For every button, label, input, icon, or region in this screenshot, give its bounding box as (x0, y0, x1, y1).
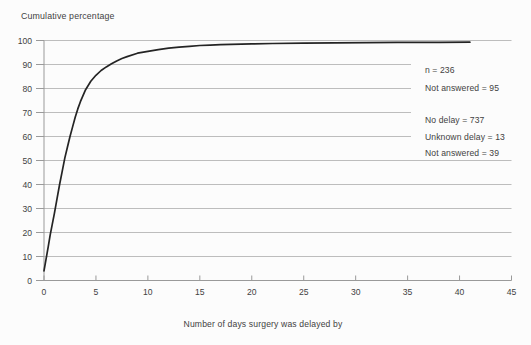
x-axis-title: Number of days surgery was delayed by (0, 319, 526, 329)
x-tick-label-30: 30 (351, 287, 361, 297)
cumulative-percentage-figure: Cumulative percentage 010203040506070809… (0, 0, 531, 345)
y-tick-label-60: 60 (22, 132, 32, 142)
x-tick-label-5: 5 (94, 287, 99, 297)
y-tick-label-90: 90 (22, 60, 32, 70)
x-tick-label-45: 45 (507, 287, 517, 297)
x-tick-label-10: 10 (143, 287, 153, 297)
x-tick-label-25: 25 (299, 287, 309, 297)
x-tick-label-35: 35 (403, 287, 413, 297)
annotation-not-answered-top: Not answered = 95 (425, 83, 499, 93)
annotation-no-delay: No delay = 737 (425, 115, 484, 125)
y-tick-label-30: 30 (22, 204, 32, 214)
y-tick-label-10: 10 (22, 252, 32, 262)
y-tick-label-70: 70 (22, 108, 32, 118)
chart-canvas: 0102030405060708090100051015202530354045 (0, 0, 531, 345)
x-tick-label-20: 20 (247, 287, 257, 297)
annotation-unknown-delay: Unknown delay = 13 (425, 132, 505, 142)
cumulative-curve (44, 42, 470, 271)
x-tick-label-15: 15 (195, 287, 205, 297)
y-tick-label-20: 20 (22, 228, 32, 238)
y-tick-label-40: 40 (22, 180, 32, 190)
y-tick-label-50: 50 (22, 156, 32, 166)
y-tick-label-80: 80 (22, 84, 32, 94)
annotation-n-total: n = 236 (425, 65, 455, 75)
y-tick-label-0: 0 (27, 276, 32, 286)
x-tick-label-0: 0 (42, 287, 47, 297)
x-tick-label-40: 40 (455, 287, 465, 297)
annotation-not-answered-bottom: Not answered = 39 (425, 148, 499, 158)
y-tick-label-100: 100 (18, 36, 33, 46)
